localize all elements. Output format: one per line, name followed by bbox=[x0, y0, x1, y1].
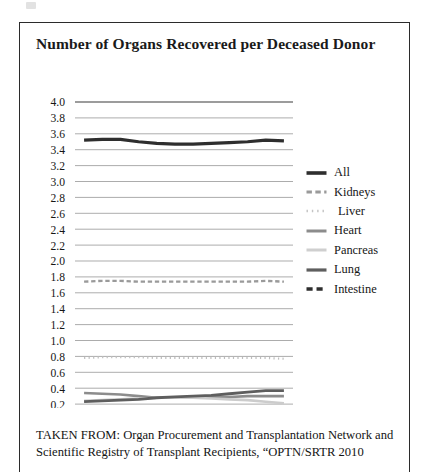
chart-legend: AllKidneysLiverHeartPancreasLungIntestin… bbox=[306, 163, 406, 299]
y-axis-tick-label: 0.2 bbox=[51, 399, 66, 409]
legend-label: Heart bbox=[334, 223, 362, 238]
legend-swatch-pancreas-icon bbox=[306, 244, 327, 256]
y-axis-tick-label: 1.8 bbox=[51, 271, 66, 284]
legend-swatch-intestine-icon bbox=[306, 283, 327, 295]
y-axis-tick-label: 1.0 bbox=[51, 335, 66, 348]
legend-swatch-liver-icon bbox=[306, 205, 327, 217]
legend-swatch-all-icon bbox=[306, 167, 327, 179]
series-line-all bbox=[84, 139, 284, 144]
series-line-kidneys bbox=[84, 281, 284, 282]
y-axis-tick-label: 2.8 bbox=[51, 192, 66, 205]
y-axis-tick-label: 0.8 bbox=[51, 351, 66, 364]
figure-caption: TAKEN FROM: Organ Procurement and Transp… bbox=[36, 427, 396, 461]
legend-label: Intestine bbox=[334, 282, 377, 297]
y-axis-tick-label: 2.6 bbox=[51, 208, 66, 221]
legend-label: Liver bbox=[334, 204, 365, 219]
legend-item-intestine[interactable]: Intestine bbox=[306, 279, 406, 298]
legend-label: All bbox=[334, 165, 350, 180]
legend-swatch-heart-icon bbox=[306, 225, 327, 237]
legend-item-all[interactable]: All bbox=[306, 163, 406, 182]
legend-swatch-lung-icon bbox=[306, 264, 327, 276]
series-line-liver bbox=[84, 357, 284, 359]
legend-label: Pancreas bbox=[334, 243, 378, 258]
y-axis-tick-label: 3.6 bbox=[51, 128, 66, 141]
y-axis-tick-label: 3.8 bbox=[51, 112, 66, 125]
legend-item-kidneys[interactable]: Kidneys bbox=[306, 182, 406, 201]
legend-item-lung[interactable]: Lung bbox=[306, 260, 406, 279]
legend-label: Kidneys bbox=[334, 185, 375, 200]
figure-title: Number of Organs Recovered per Deceased … bbox=[36, 35, 375, 53]
legend-label: Lung bbox=[334, 262, 360, 277]
legend-swatch-kidneys-icon bbox=[306, 186, 327, 198]
y-axis-tick-label: 1.2 bbox=[51, 319, 66, 332]
y-axis-tick-label: 1.4 bbox=[51, 303, 66, 316]
y-axis-tick-label: 3.0 bbox=[51, 176, 66, 189]
legend-item-heart[interactable]: Heart bbox=[306, 221, 406, 240]
y-axis-tick-label: 2.4 bbox=[51, 224, 66, 237]
y-axis-tick-label: 3.4 bbox=[51, 144, 66, 157]
legend-item-liver[interactable]: Liver bbox=[306, 202, 406, 221]
y-axis-tick-label: 2.0 bbox=[51, 255, 66, 268]
page-top-margin bbox=[0, 0, 433, 21]
legend-item-pancreas[interactable]: Pancreas bbox=[306, 241, 406, 260]
y-axis-tick-label: 3.2 bbox=[51, 160, 66, 173]
y-axis-tick-label: 4.0 bbox=[51, 96, 66, 109]
y-axis-tick-label: 2.2 bbox=[51, 240, 66, 253]
y-axis-tick-label: 1.6 bbox=[51, 287, 66, 300]
y-axis-tick-label: 0.4 bbox=[51, 383, 66, 396]
y-axis-tick-label: 0.6 bbox=[51, 367, 66, 380]
scan-artifact bbox=[26, 2, 36, 9]
figure-container: Number of Organs Recovered per Deceased … bbox=[19, 22, 410, 472]
